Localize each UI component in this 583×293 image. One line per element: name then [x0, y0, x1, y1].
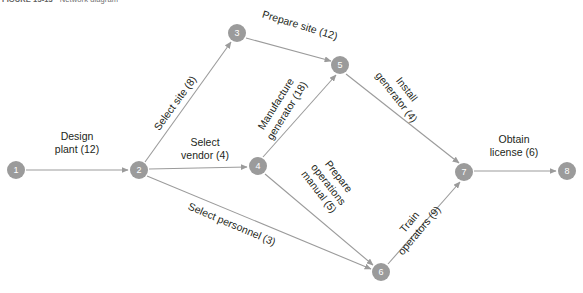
node-2[interactable]: 2 [130, 161, 148, 179]
node-5[interactable]: 5 [331, 56, 349, 74]
node-8[interactable]: 8 [558, 162, 576, 180]
node-1[interactable]: 1 [7, 161, 25, 179]
edge-label-2-4: Select vendor (4) [181, 136, 229, 161]
edge-label-1-2: Design plant (12) [55, 130, 99, 155]
edge-2-4 [149, 167, 247, 169]
edge-3-5 [246, 38, 331, 61]
edge-line-group [26, 38, 556, 269]
edge-label-7-8: Obtain license (6) [490, 133, 538, 158]
node-4[interactable]: 4 [249, 157, 267, 175]
node-7[interactable]: 7 [455, 163, 473, 181]
node-3[interactable]: 3 [228, 24, 246, 42]
node-6[interactable]: 6 [372, 263, 390, 281]
